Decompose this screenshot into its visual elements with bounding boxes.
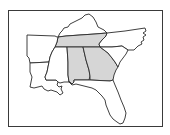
southeast-us-map <box>0 0 170 135</box>
map-figure: Southeastern United States <box>0 0 170 135</box>
state-florida <box>69 80 126 124</box>
